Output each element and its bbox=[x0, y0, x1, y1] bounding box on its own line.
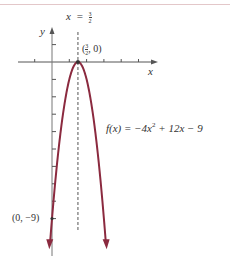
function-equation: f(x) = −4x2 + 12x − 9 bbox=[106, 121, 203, 134]
vertex-rest: , 0) bbox=[88, 43, 101, 54]
right-arrow-icon bbox=[103, 239, 110, 249]
vertex-label: (32, 0) bbox=[82, 43, 102, 56]
function-text-part: + 12x − 9 bbox=[156, 122, 203, 134]
symmetry-eq: = bbox=[77, 10, 83, 22]
parabola-plot bbox=[0, 0, 235, 279]
symmetry-x: x bbox=[66, 10, 71, 22]
fraction-numerator: 3 bbox=[89, 11, 92, 18]
function-text-part: f(x) = −4x bbox=[106, 122, 152, 134]
y-axis-arrow-icon bbox=[50, 27, 55, 34]
x-axis-label: x bbox=[148, 65, 153, 77]
y-intercept-label: (0, −9) bbox=[12, 212, 39, 223]
vertex-point bbox=[76, 60, 80, 64]
x-axis-arrow-icon bbox=[151, 60, 158, 65]
symmetry-fraction: 3 2 bbox=[89, 11, 92, 24]
y-intercept-point bbox=[50, 217, 53, 220]
symmetry-axis-label: x = 3 2 bbox=[66, 10, 92, 24]
y-axis-label: y bbox=[40, 25, 45, 37]
fraction-denominator: 2 bbox=[89, 18, 92, 24]
